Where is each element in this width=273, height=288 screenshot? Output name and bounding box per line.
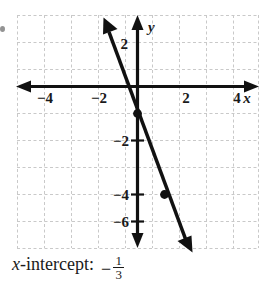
fraction-numerator: 1 bbox=[113, 254, 124, 267]
coordinate-plane-plot: −4 −2 2 4 2 −2 −4 −6 y x bbox=[0, 0, 273, 288]
caption-label: -intercept: bbox=[20, 254, 94, 275]
ytick-label-neg4: −4 bbox=[113, 187, 130, 203]
ytick-label-neg2: −2 bbox=[113, 133, 129, 149]
caption-x-intercept: x-intercept: − 1 3 bbox=[12, 254, 124, 282]
y-axis-bottom-arrowhead bbox=[132, 233, 144, 248]
caption-variable: x bbox=[12, 254, 20, 275]
point-y-intercept bbox=[133, 109, 142, 118]
xtick-label-neg2: −2 bbox=[91, 90, 107, 106]
fraction-denominator: 3 bbox=[113, 268, 124, 281]
y-axis-top-arrowhead bbox=[132, 15, 144, 30]
xtick-label-pos2: 2 bbox=[182, 90, 190, 106]
graph-figure: −4 −2 2 4 2 −2 −4 −6 y x x-intercept: − … bbox=[0, 0, 273, 288]
ytick-label-neg6: −6 bbox=[113, 214, 130, 230]
ytick-label-pos2: 2 bbox=[121, 36, 129, 52]
xtick-label-pos4: 4 bbox=[233, 90, 241, 106]
x-axis-left-arrowhead bbox=[16, 81, 31, 93]
caption-fraction: 1 3 bbox=[113, 254, 124, 282]
y-axis bbox=[132, 15, 144, 248]
x-axis-label: x bbox=[242, 90, 251, 106]
xtick-label-neg4: −4 bbox=[37, 90, 54, 106]
point-second bbox=[160, 190, 169, 199]
caption-minus-sign: − bbox=[101, 259, 111, 280]
y-axis-label: y bbox=[146, 19, 155, 35]
